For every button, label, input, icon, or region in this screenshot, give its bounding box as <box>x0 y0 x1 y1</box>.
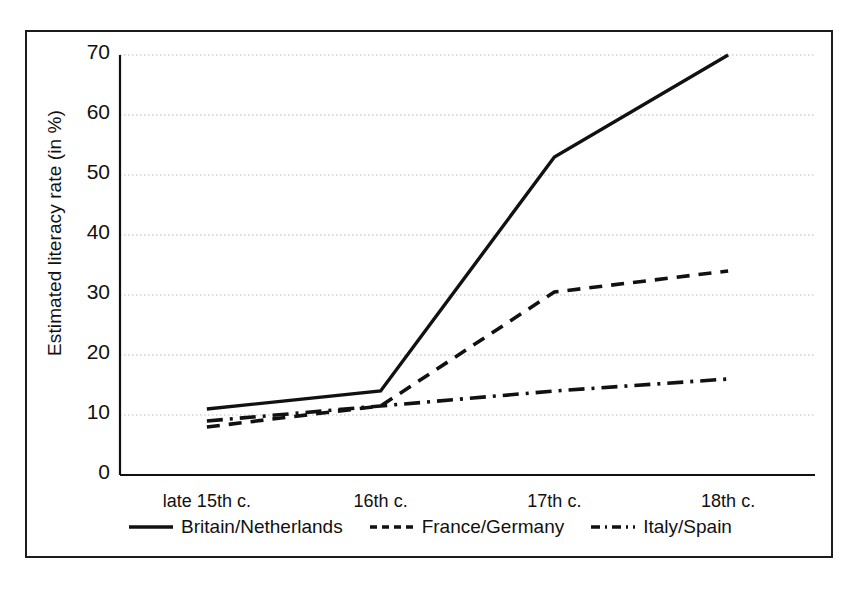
plot-canvas <box>27 32 833 498</box>
chart-legend: Britain/NetherlandsFrance/GermanyItaly/S… <box>27 516 833 538</box>
legend-entry: Italy/Spain <box>590 516 732 538</box>
y-tick-label: 30 <box>64 280 110 304</box>
x-tick-label: 16th c. <box>354 491 408 512</box>
gridlines-group <box>120 55 815 415</box>
y-tick-label: 20 <box>64 340 110 364</box>
axis-lines-group <box>120 55 815 475</box>
legend-swatch-solid-icon <box>128 520 174 534</box>
y-tick-label: 70 <box>64 40 110 64</box>
legend-swatch-dashdot-icon <box>590 520 636 534</box>
x-tick-label: late 15th c. <box>163 491 251 512</box>
y-tick-label: 50 <box>64 160 110 184</box>
chart-region: Estimated literacy rate (in %) 706050403… <box>27 32 833 498</box>
y-tick-label: 40 <box>64 220 110 244</box>
y-tick-label: 0 <box>64 460 110 484</box>
x-tick-label: 17th c. <box>527 491 581 512</box>
legend-label: Italy/Spain <box>643 516 732 538</box>
series-line-0 <box>207 55 728 409</box>
data-series-group <box>207 55 728 427</box>
figure-frame: Estimated literacy rate (in %) 706050403… <box>25 30 833 558</box>
legend-label: Britain/Netherlands <box>181 516 343 538</box>
legend-swatch-dashed-icon <box>369 520 415 534</box>
x-tick-label: 18th c. <box>701 491 755 512</box>
y-tick-label: 10 <box>64 400 110 424</box>
series-line-1 <box>207 271 728 427</box>
y-tick-label: 60 <box>64 100 110 124</box>
legend-entry: Britain/Netherlands <box>128 516 343 538</box>
legend-entry: France/Germany <box>369 516 565 538</box>
legend-label: France/Germany <box>422 516 565 538</box>
